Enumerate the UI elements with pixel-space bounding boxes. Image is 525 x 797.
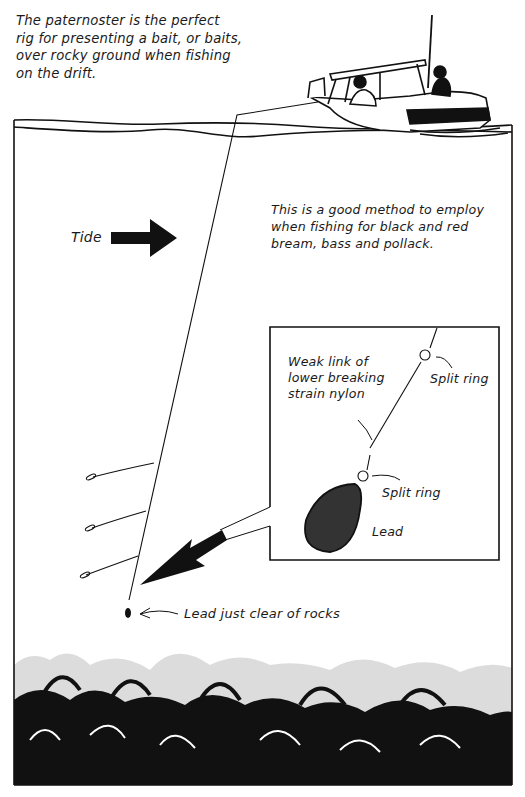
angler-2-head	[434, 66, 446, 78]
inset-lead-weight	[305, 484, 361, 552]
lead-label: Lead	[372, 524, 403, 539]
weak-link-label: Weak link of lower breaking strain nylon	[288, 354, 408, 402]
inset-rig	[358, 328, 437, 481]
method-caption: This is a good method to employ when fis…	[271, 201, 516, 252]
illustration	[0, 0, 525, 797]
intro-caption: The paternoster is the perfect rig for p…	[16, 12, 276, 82]
tide-arrow-icon	[111, 219, 177, 257]
detail-pointer-arrow	[140, 507, 270, 585]
split-ring-top-label: Split ring	[430, 371, 489, 386]
boat	[308, 15, 490, 132]
fishing-line	[129, 102, 318, 600]
lead-clear-label: Lead just clear of rocks	[184, 606, 340, 621]
hooks	[80, 463, 154, 579]
rocky-seabed	[14, 654, 512, 785]
split-ring-bottom-label: Split ring	[382, 485, 441, 500]
angler-1-head	[354, 76, 366, 88]
tide-label: Tide	[71, 229, 102, 245]
lead-pointer-arrow	[140, 608, 178, 618]
lead-weight	[125, 608, 131, 618]
